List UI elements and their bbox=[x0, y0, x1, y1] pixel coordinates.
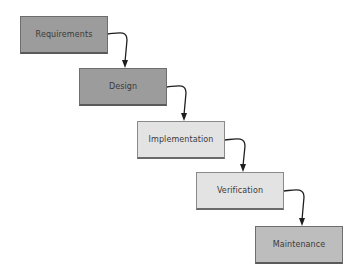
arrow-design-to-implementation bbox=[167, 86, 186, 115]
phase-implementation: Implementation bbox=[137, 121, 225, 159]
phase-maintenance: Maintenance bbox=[255, 226, 343, 264]
arrowhead-icon bbox=[240, 164, 246, 172]
phase-label: Verification bbox=[217, 186, 263, 195]
arrowhead-icon bbox=[181, 113, 187, 121]
phase-requirements: Requirements bbox=[20, 16, 108, 54]
arrow-verification-to-maintenance bbox=[284, 190, 304, 220]
phase-verification: Verification bbox=[196, 172, 284, 210]
waterfall-diagram: Requirements Design Implementation Verif… bbox=[0, 0, 361, 279]
phase-label: Implementation bbox=[149, 135, 214, 144]
arrowhead-icon bbox=[299, 218, 305, 226]
phase-design: Design bbox=[79, 68, 167, 106]
arrowhead-icon bbox=[122, 60, 128, 68]
phase-label: Requirements bbox=[36, 30, 93, 39]
phase-label: Maintenance bbox=[273, 240, 326, 249]
arrow-implementation-to-verification bbox=[225, 139, 245, 166]
phase-label: Design bbox=[109, 82, 137, 91]
arrow-requirements-to-design bbox=[108, 33, 127, 62]
